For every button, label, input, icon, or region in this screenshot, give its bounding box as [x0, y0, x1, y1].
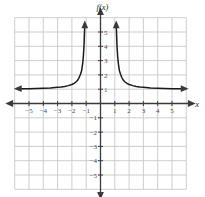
function-curve: [14, 20, 189, 92]
svg-text:−3: −3: [90, 143, 98, 151]
axes: [5, 7, 195, 197]
svg-text:−4: −4: [40, 107, 48, 115]
svg-text:5: 5: [104, 29, 108, 37]
svg-text:5: 5: [170, 107, 174, 115]
x-axis-label: x: [194, 99, 199, 109]
svg-text:4: 4: [104, 43, 108, 51]
svg-text:−2: −2: [68, 107, 76, 115]
plot-canvas: −5−4−3−2−112345−5−4−3−2−112345 f(x) x: [0, 0, 205, 197]
svg-text:4: 4: [156, 107, 160, 115]
svg-text:1: 1: [104, 86, 108, 94]
svg-text:−5: −5: [90, 172, 98, 180]
svg-text:1: 1: [113, 107, 117, 115]
svg-text:−5: −5: [25, 107, 33, 115]
svg-text:3: 3: [104, 57, 108, 65]
function-label: f(x): [97, 2, 109, 12]
svg-text:−3: −3: [54, 107, 62, 115]
svg-text:2: 2: [104, 72, 108, 80]
svg-text:−4: −4: [90, 157, 98, 165]
svg-text:−2: −2: [90, 129, 98, 137]
function-graph-figure: −5−4−3−2−112345−5−4−3−2−112345 f(x) x: [0, 0, 205, 197]
svg-text:3: 3: [142, 107, 146, 115]
svg-text:2: 2: [127, 107, 131, 115]
svg-text:−1: −1: [90, 114, 98, 122]
